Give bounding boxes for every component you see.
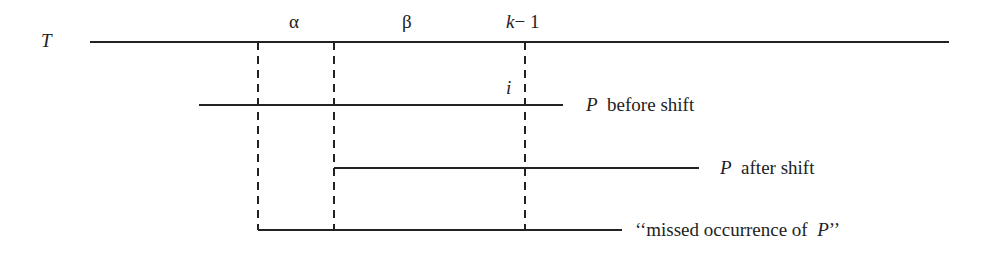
label-before-shift-text: before shift	[607, 94, 694, 115]
label-P: P	[586, 94, 598, 115]
label-alpha: α	[289, 12, 299, 31]
label-k-minus-1: k− 1	[506, 12, 539, 31]
label-p-after-shift: P after shift	[720, 158, 814, 177]
label-beta: β	[402, 12, 412, 31]
label-i: i	[506, 78, 511, 97]
label-minus-one: − 1	[514, 11, 539, 32]
label-missed-text: ‘‘missed occurrence of	[635, 219, 808, 240]
label-after-shift-text: after shift	[741, 157, 814, 178]
label-T: T	[41, 31, 52, 50]
label-P: P	[720, 157, 732, 178]
label-p-before-shift: P before shift	[586, 95, 694, 114]
label-missed-occurrence: ‘‘missed occurrence of P’’	[635, 220, 840, 239]
diagram-canvas	[0, 0, 983, 254]
label-close-quote: ’’	[829, 219, 840, 240]
label-P: P	[817, 219, 829, 240]
